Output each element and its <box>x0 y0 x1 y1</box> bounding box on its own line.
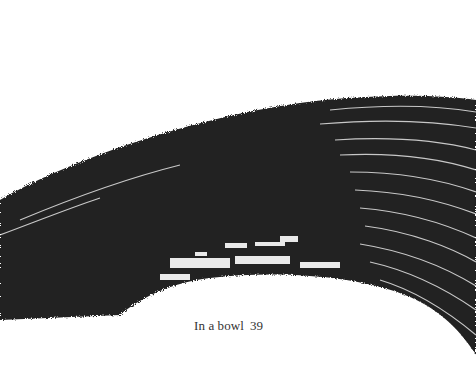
book-page: In a bowl 39 <box>0 0 476 375</box>
running-title: In a bowl <box>194 318 244 334</box>
page-footer: In a bowl 39 <box>0 318 476 338</box>
page-number: 39 <box>250 318 263 334</box>
